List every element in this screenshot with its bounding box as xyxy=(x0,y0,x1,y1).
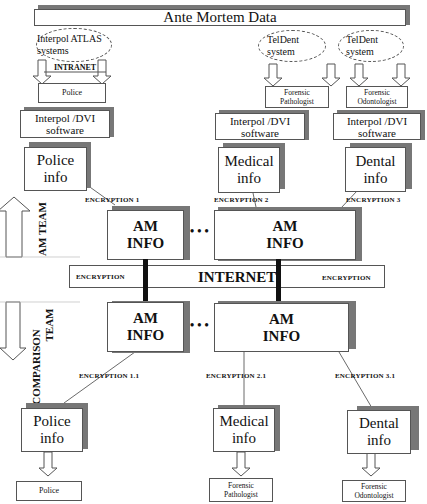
encryption-label-2: ENCRYPTION 2 xyxy=(214,196,268,204)
medical-info-box-top: Medical info xyxy=(218,147,280,193)
am-info-box-lower-2: AM INFO xyxy=(214,303,349,352)
dvi-software-box-police: Interpol /DVI software xyxy=(20,110,110,138)
am-info-box-lower-1: AM INFO xyxy=(107,302,184,352)
actor-box-pathologist-top: Forensic Pathologist xyxy=(265,86,329,108)
dvi-software-box-dental: Interpol /DVI software xyxy=(333,113,421,140)
encryption-label-2-1: ENCRYPTION 2.1 xyxy=(206,372,266,380)
actor-box-odontologist-bottom: Forensic Odontologist xyxy=(342,480,406,502)
ellipsis-lower: • • • xyxy=(190,318,209,333)
encryption-label-1: ENCRYPTION 1 xyxy=(85,196,139,204)
dental-info-box-bottom: Dental info xyxy=(347,410,411,454)
encryption-label-1-1: ENCRYPTION 1.1 xyxy=(79,372,139,380)
system-ellipse-teldent-1: TelDent system xyxy=(258,30,326,62)
am-team-label: AM TEAM xyxy=(36,194,50,264)
ante-mortem-header: Ante Mortem Data xyxy=(34,9,406,26)
ellipsis-upper: • • • xyxy=(190,224,209,239)
comparison-team-label-1: COMPARISON xyxy=(30,322,44,412)
system-ellipse-atlas: Interpol ATLAS systems xyxy=(36,28,112,62)
actor-box-odontologist-top: Forensic Odontologist xyxy=(346,86,408,108)
system-ellipse-teldent-2: TelDent system xyxy=(338,30,404,62)
internet-label: INTERNET xyxy=(198,269,276,286)
encryption-label-3-1: ENCRYPTION 3.1 xyxy=(335,372,395,380)
dvi-software-box-medical: Interpol /DVI software xyxy=(215,113,305,140)
internet-encryption-left: ENCRYPTION xyxy=(76,273,125,281)
intranet-label: INTRANET xyxy=(44,62,106,72)
actor-box-police-bottom: Police xyxy=(16,481,82,501)
comparison-team-label-2: TEAM xyxy=(43,295,57,355)
police-info-box-top: Police info xyxy=(24,147,87,191)
encryption-label-3: ENCRYPTION 3 xyxy=(346,196,400,204)
am-info-box-upper-2: AM INFO xyxy=(214,210,356,260)
am-info-box-upper-1: AM INFO xyxy=(107,210,184,260)
police-info-box-bottom: Police info xyxy=(21,408,83,452)
dental-info-box-top: Dental info xyxy=(345,147,406,192)
medical-info-box-bottom: Medical info xyxy=(213,408,275,452)
internet-bar: ENCRYPTION INTERNET ENCRYPTION xyxy=(69,265,385,288)
actor-box-police-top: Police xyxy=(38,83,106,103)
actor-box-pathologist-bottom: Forensic Pathologist xyxy=(209,478,273,502)
internet-encryption-right: ENCRYPTION xyxy=(322,274,371,282)
header-title: Ante Mortem Data xyxy=(163,9,276,26)
